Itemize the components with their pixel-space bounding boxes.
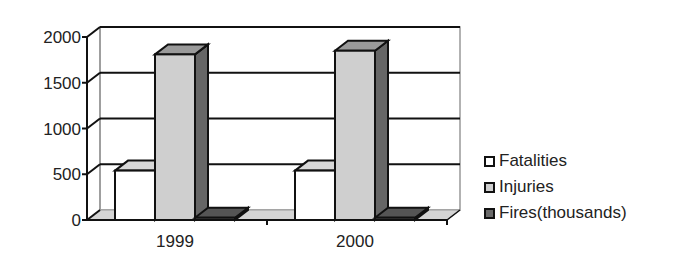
bar <box>155 54 195 220</box>
legend-label: Injuries <box>499 177 554 197</box>
x-tick-label: 1999 <box>156 232 194 251</box>
bar <box>115 171 155 220</box>
legend-swatch-icon <box>484 156 495 167</box>
legend-swatch-icon <box>484 182 495 193</box>
legend-item: Fires(thousands) <box>484 200 627 226</box>
y-tick-label: 500 <box>53 165 81 184</box>
y-tick-label: 1000 <box>43 120 81 139</box>
y-axis: 0500100015002000 <box>43 27 100 230</box>
legend: FatalitiesInjuriesFires(thousands) <box>484 148 627 226</box>
legend-item: Injuries <box>484 174 627 200</box>
y-tick-label: 0 <box>72 211 81 230</box>
legend-label: Fatalities <box>499 151 567 171</box>
y-tick-label: 1500 <box>43 74 81 93</box>
legend-item: Fatalities <box>484 148 627 174</box>
legend-swatch-icon <box>484 208 495 219</box>
x-tick-label: 2000 <box>336 232 374 251</box>
y-tick-label: 2000 <box>43 28 81 47</box>
bar <box>335 51 375 220</box>
legend-label: Fires(thousands) <box>499 203 627 223</box>
bar <box>295 171 335 220</box>
